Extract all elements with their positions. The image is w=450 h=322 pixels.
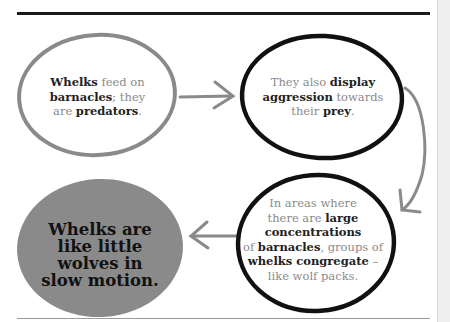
text-span: their bbox=[291, 104, 323, 118]
arrow-down-curve-icon bbox=[400, 88, 425, 212]
bold-term: large bbox=[325, 211, 358, 225]
text-span: of bbox=[243, 240, 258, 254]
arrow-left-icon bbox=[191, 222, 238, 248]
bold-term: barnacles bbox=[50, 90, 113, 104]
bold-term: whelks congregate bbox=[248, 254, 369, 268]
bold-term: concentrations bbox=[265, 225, 362, 239]
node-congregate-text: In areas where there are large concentra… bbox=[238, 196, 388, 283]
bold-term: display bbox=[330, 75, 375, 89]
node-conclusion-text: Whelks are like little wolves in slow mo… bbox=[35, 221, 165, 289]
text-span: . bbox=[351, 104, 355, 118]
text-span: . bbox=[138, 104, 142, 118]
text-span: ; they bbox=[112, 90, 145, 104]
bold-term: Whelks bbox=[50, 75, 97, 89]
text-span: – bbox=[369, 254, 378, 268]
text-span: like wolf packs. bbox=[268, 269, 358, 283]
text-span: there are bbox=[268, 211, 326, 225]
text-span: are bbox=[53, 104, 76, 118]
arrow-right-icon bbox=[180, 82, 233, 108]
text-span: They also bbox=[271, 75, 330, 89]
bold-term: barnacles bbox=[258, 240, 321, 254]
text-span: In areas where bbox=[269, 196, 357, 210]
text-span: feed on bbox=[98, 75, 145, 89]
bold-term: aggression bbox=[263, 90, 333, 104]
node-aggression-text: They also display aggression towards the… bbox=[262, 75, 384, 119]
bold-term: prey bbox=[323, 104, 351, 118]
node-feed-text: Whelks feed on barnacles; they are preda… bbox=[40, 75, 155, 119]
side-scroll-strip bbox=[438, 0, 450, 322]
text-span: , groups of bbox=[320, 240, 383, 254]
bold-term: predators bbox=[76, 104, 138, 118]
text-span: towards bbox=[333, 90, 384, 104]
